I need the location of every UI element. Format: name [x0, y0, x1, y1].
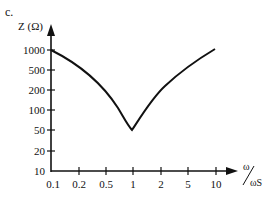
svg-text:2: 2 — [158, 178, 164, 190]
svg-text:5: 5 — [185, 178, 191, 190]
y-axis-label: Z (Ω) — [18, 20, 43, 33]
svg-text:200: 200 — [29, 84, 46, 96]
y-tick-labels: 1000 500 200 100 50 20 10 — [23, 44, 46, 177]
x-tick-labels: 0.1 0.2 0.5 1 2 5 10 — [46, 178, 222, 190]
svg-text:1: 1 — [130, 178, 136, 190]
x-axis-label-numerator: ω — [243, 161, 250, 172]
impedance-chart: c. Z (Ω) ω ωS 1000 500 200 100 50 20 10 … — [0, 0, 268, 197]
svg-text:1000: 1000 — [23, 44, 46, 56]
x-axis-label-denominator: ωS — [250, 177, 262, 188]
svg-text:100: 100 — [29, 104, 46, 116]
impedance-curve — [51, 49, 215, 130]
svg-text:10: 10 — [34, 165, 46, 177]
y-axis-arrow-icon — [47, 24, 55, 36]
svg-text:20: 20 — [34, 145, 46, 157]
svg-text:500: 500 — [29, 64, 46, 76]
svg-text:0.1: 0.1 — [46, 178, 60, 190]
x-axis-arrow-icon — [226, 167, 238, 175]
svg-text:10: 10 — [211, 178, 223, 190]
svg-text:0.2: 0.2 — [72, 178, 86, 190]
panel-label: c. — [5, 5, 13, 19]
svg-text:0.5: 0.5 — [99, 178, 113, 190]
svg-text:50: 50 — [34, 124, 46, 136]
